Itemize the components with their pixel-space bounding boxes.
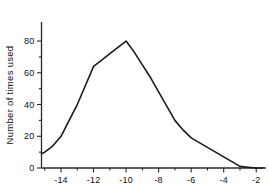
chart-background [0, 0, 269, 195]
y-tick-label: 20 [24, 131, 34, 141]
x-tick-label: -4 [219, 175, 227, 185]
y-tick-label: 60 [24, 68, 34, 78]
y-axis-label: Number of times used [4, 46, 15, 145]
x-tick-label: -6 [187, 175, 195, 185]
chart-figure: 020406080 -14-12-10-8-6-4-2 Number of ti… [0, 0, 269, 195]
y-tick-label: 40 [24, 100, 34, 110]
y-tick-label: 80 [24, 36, 34, 46]
y-axis-label-text: Number of times used [4, 46, 15, 145]
line-chart: 020406080 -14-12-10-8-6-4-2 Number of ti… [0, 0, 269, 195]
x-tick-label: -12 [87, 175, 101, 185]
x-tick-label: -10 [119, 175, 133, 185]
x-tick-label: -14 [54, 175, 68, 185]
x-tick-label: -2 [252, 175, 260, 185]
x-tick-label: -8 [154, 175, 162, 185]
y-tick-label: 0 [29, 163, 34, 173]
